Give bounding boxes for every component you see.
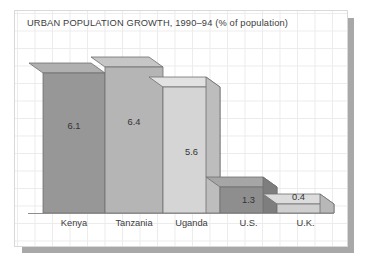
bar-value-uganda: 5.6	[163, 147, 220, 157]
bar-value-uk: 0.4	[270, 192, 327, 202]
chart-card: URBAN POPULATION GROWTH, 1990–94 (% of p…	[14, 10, 348, 247]
category-label-kenya: Kenya	[43, 218, 105, 228]
category-label-uganda: Uganda	[163, 218, 220, 228]
chart-figure: URBAN POPULATION GROWTH, 1990–94 (% of p…	[0, 0, 365, 262]
bar-value-tanzania: 6.4	[105, 117, 163, 127]
category-label-us: U.S.	[220, 218, 277, 228]
bar-value-us: 1.3	[220, 195, 277, 205]
category-label-tanzania: Tanzania	[105, 218, 163, 228]
category-axis-labels: Kenya Tanzania Uganda U.S. U.K.	[15, 218, 347, 236]
category-label-uk: U.K.	[277, 218, 334, 228]
bar-kenya	[29, 63, 105, 213]
bar-value-kenya: 6.1	[43, 121, 105, 131]
baseline-axis	[28, 213, 334, 214]
